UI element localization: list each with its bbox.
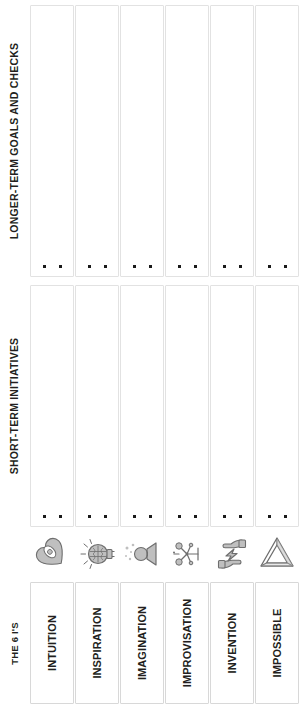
- band-label-short-term-initiatives-text: SHORT-TERM INITIATIVES: [8, 338, 20, 475]
- band-label-longer-term-goals: LONGER-TERM GOALS AND CHECKS: [0, 5, 28, 277]
- note-markers: [31, 515, 73, 518]
- short-term-initiatives-cell[interactable]: [255, 285, 299, 527]
- note-markers: [121, 265, 163, 268]
- note-markers: [256, 265, 298, 268]
- short-term-note-marker[interactable]: [223, 515, 226, 518]
- longer-term-goals-cell[interactable]: [165, 5, 209, 277]
- longer-term-note-marker[interactable]: [59, 265, 62, 268]
- short-term-note-marker[interactable]: [133, 515, 136, 518]
- note-markers: [76, 515, 118, 518]
- short-term-note-marker[interactable]: [43, 515, 46, 518]
- longer-term-note-marker[interactable]: [194, 265, 197, 268]
- short-term-initiatives-cell[interactable]: [210, 285, 254, 527]
- lightbulb-brain-icon: [75, 531, 119, 577]
- band-label-the-6-is: THE 6 I'S: [0, 582, 28, 704]
- column-name-label: IMPOSSIBLE: [256, 583, 298, 703]
- short-term-initiatives-cell[interactable]: [75, 285, 119, 527]
- short-term-initiatives-cell[interactable]: [120, 285, 164, 527]
- note-markers: [76, 265, 118, 268]
- short-term-initiatives-cell[interactable]: [165, 285, 209, 527]
- longer-term-note-marker[interactable]: [239, 265, 242, 268]
- glowing-projector-icon: [120, 531, 164, 577]
- longer-term-note-marker[interactable]: [268, 265, 271, 268]
- short-term-note-marker[interactable]: [88, 515, 91, 518]
- penrose-triangle-icon: [255, 531, 299, 577]
- heart-eye-icon: [30, 531, 74, 577]
- column-name-text: INTUITION: [46, 615, 58, 671]
- note-markers: [31, 265, 73, 268]
- longer-term-note-marker[interactable]: [88, 265, 91, 268]
- column-name-box[interactable]: INVENTION: [210, 582, 254, 704]
- longer-term-goals-cell[interactable]: [75, 5, 119, 277]
- column-name-label: INTUITION: [31, 583, 73, 703]
- column-name-text: IMPROVISATION: [181, 599, 193, 688]
- longer-term-goals-cell[interactable]: [255, 5, 299, 277]
- column-name-text: INSPIRATION: [91, 607, 103, 678]
- note-markers: [166, 515, 208, 518]
- note-markers: [166, 265, 208, 268]
- longer-term-note-marker[interactable]: [284, 265, 287, 268]
- short-term-note-marker[interactable]: [194, 515, 197, 518]
- column-name-box[interactable]: IMPOSSIBLE: [255, 582, 299, 704]
- band-label-the-6-is-text: THE 6 I'S: [9, 622, 20, 665]
- note-markers: [121, 515, 163, 518]
- column-name-label: INSPIRATION: [76, 583, 118, 703]
- note-markers: [211, 265, 253, 268]
- short-term-note-marker[interactable]: [239, 515, 242, 518]
- short-term-note-marker[interactable]: [178, 515, 181, 518]
- short-term-note-marker[interactable]: [59, 515, 62, 518]
- short-term-initiatives-cell[interactable]: [30, 285, 74, 527]
- column-name-box[interactable]: INSPIRATION: [75, 582, 119, 704]
- band-label-short-term-initiatives: SHORT-TERM INITIATIVES: [0, 285, 28, 527]
- column-name-label: INVENTION: [211, 583, 253, 703]
- longer-term-note-marker[interactable]: [149, 265, 152, 268]
- column-name-label: IMAGINATION: [121, 583, 163, 703]
- longer-term-note-marker[interactable]: [133, 265, 136, 268]
- longer-term-goals-cell[interactable]: [30, 5, 74, 277]
- column-name-text: INVENTION: [226, 613, 238, 674]
- longer-term-note-marker[interactable]: [104, 265, 107, 268]
- hands-lightning-icon: [210, 531, 254, 577]
- short-term-note-marker[interactable]: [268, 515, 271, 518]
- longer-term-goals-cell[interactable]: [120, 5, 164, 277]
- note-markers: [256, 515, 298, 518]
- column-name-box[interactable]: INTUITION: [30, 582, 74, 704]
- short-term-note-marker[interactable]: [104, 515, 107, 518]
- longer-term-note-marker[interactable]: [178, 265, 181, 268]
- column-name-text: IMPOSSIBLE: [271, 609, 283, 678]
- column-name-box[interactable]: IMPROVISATION: [165, 582, 209, 704]
- column-name-label: IMPROVISATION: [166, 583, 208, 703]
- band-label-longer-term-goals-text: LONGER-TERM GOALS AND CHECKS: [8, 43, 20, 240]
- longer-term-goals-cell[interactable]: [210, 5, 254, 277]
- network-nodes-icon: [165, 531, 209, 577]
- longer-term-note-marker[interactable]: [43, 265, 46, 268]
- column-name-text: IMAGINATION: [136, 606, 148, 680]
- column-name-box[interactable]: IMAGINATION: [120, 582, 164, 704]
- six-is-framework-canvas: LONGER-TERM GOALS AND CHECKS SHORT-TERM …: [0, 0, 305, 709]
- longer-term-note-marker[interactable]: [223, 265, 226, 268]
- short-term-note-marker[interactable]: [284, 515, 287, 518]
- short-term-note-marker[interactable]: [149, 515, 152, 518]
- note-markers: [211, 515, 253, 518]
